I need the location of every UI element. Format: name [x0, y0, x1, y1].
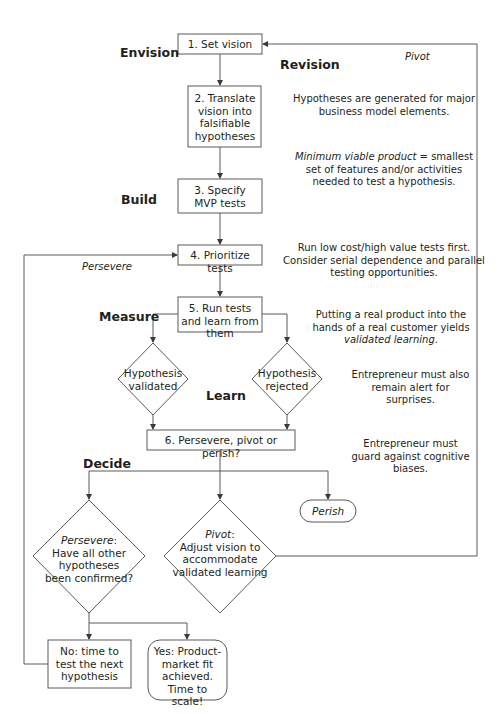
- node-hypothesis-validated: Hypothesis validated: [123, 367, 183, 392]
- stage-revision: Revision: [280, 57, 340, 72]
- note-measure-term: validated learning: [344, 334, 435, 345]
- stage-envision: Envision: [120, 45, 179, 60]
- note-prioritize: Run low cost/high value tests first. Con…: [283, 242, 485, 280]
- note-mvp-term: Minimum viable product: [295, 151, 416, 162]
- node-decide: 6. Persevere, pivot or perish?: [147, 434, 295, 459]
- node-no-branch: No: time to test the next hypothesis: [50, 645, 129, 683]
- stage-measure: Measure: [99, 309, 159, 324]
- node-set-vision: 1. Set vision: [178, 38, 262, 51]
- node-persevere: Persevere: Have all other hypotheses bee…: [44, 534, 134, 584]
- note-hypotheses: Hypotheses are generated for major busin…: [289, 93, 479, 118]
- pivot-text: Adjust vision to accommodate validated l…: [173, 541, 268, 578]
- note-measure: Putting a real product into the hands of…: [311, 309, 471, 347]
- node-prioritize-tests: 4. Prioritize tests: [178, 249, 262, 274]
- note-surprises: Entrepreneur must also remain alert for …: [348, 369, 473, 407]
- node-pivot: Pivot: Adjust vision to accommodate vali…: [172, 528, 268, 578]
- persevere-question: Have all other hypotheses been confirmed…: [45, 547, 133, 584]
- node-hypothesis-rejected: Hypothesis rejected: [257, 367, 317, 392]
- stage-decide: Decide: [83, 456, 131, 471]
- note-measure-post: .: [435, 334, 438, 345]
- edge-label-persevere: Persevere: [82, 261, 132, 272]
- note-measure-pre: Putting a real product into the hands of…: [312, 309, 469, 333]
- node-translate-vision: 2. Translate vision into falsifiable hyp…: [190, 92, 260, 142]
- node-specify-mvp: 3. Specify MVP tests: [182, 184, 258, 209]
- node-perish: Perish: [300, 505, 356, 518]
- node-run-tests: 5. Run tests and learn from them: [180, 302, 260, 340]
- stage-learn: Learn: [206, 388, 246, 403]
- note-mvp: Minimum viable product = smallest set of…: [289, 151, 479, 189]
- note-biases: Entrepreneur must guard against cognitiv…: [348, 438, 473, 476]
- pivot-label: Pivot: [205, 528, 231, 540]
- persevere-label: Persevere: [61, 534, 114, 546]
- edge-label-pivot: Pivot: [405, 51, 430, 62]
- stage-build: Build: [121, 192, 157, 207]
- node-yes-branch: Yes: Product-market fit achieved. Time t…: [152, 645, 223, 708]
